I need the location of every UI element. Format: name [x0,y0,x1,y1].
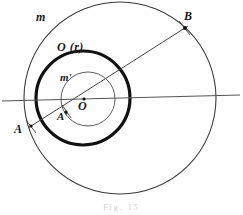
figure-canvas [0,0,243,215]
label-point-a: A [14,123,22,135]
diagonal-line-a-b [28,26,188,128]
label-inner-circle-m-prime: m' [60,72,72,83]
figure-caption: Fig. 15 [0,203,243,215]
point-marker-a [29,124,32,127]
label-point-a-prime: A' [57,111,67,122]
label-outer-circle-m: m [36,11,45,23]
point-marker-b [183,26,187,30]
geometry-figure: m O (r) m' O A' A B Fig. 15 [0,0,243,215]
secant-line [2,95,240,101]
label-thick-circle-o-r: O (r) [57,41,84,53]
label-point-b: B [184,10,192,22]
label-center-o: O [78,100,87,112]
